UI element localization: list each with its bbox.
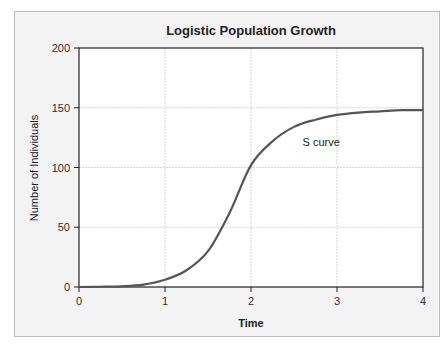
y-tick-label: 100 <box>52 162 70 174</box>
x-tick-label: 0 <box>76 295 82 307</box>
x-tick-label: 2 <box>248 295 254 307</box>
y-axis-label: Number of Individuals <box>28 114 40 221</box>
x-tick-label: 3 <box>334 295 340 307</box>
x-axis-label: Time <box>238 317 263 329</box>
y-tick-label: 0 <box>64 281 70 293</box>
y-tick-label: 150 <box>52 102 70 114</box>
y-tick-label: 200 <box>52 42 70 54</box>
x-tick-label: 4 <box>420 295 426 307</box>
s-curve-annotation: S curve <box>303 136 340 148</box>
chart-title: Logistic Population Growth <box>166 23 336 38</box>
x-tick-label: 1 <box>162 295 168 307</box>
y-tick-label: 50 <box>58 221 70 233</box>
chart-svg: 01234050100150200 S curve Logistic Popul… <box>0 0 448 348</box>
